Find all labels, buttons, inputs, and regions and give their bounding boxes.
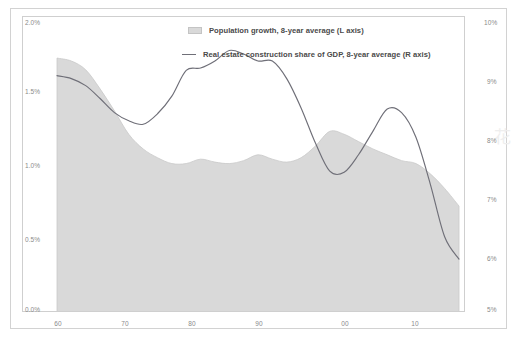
x-axis-tick-80: 80 bbox=[181, 320, 203, 327]
legend-label-population-growth: Population growth, 8-year average (L axi… bbox=[209, 26, 364, 35]
plot-area-frame: 花 bbox=[22, 16, 465, 312]
y-axis-right-tick-6: 6% bbox=[487, 255, 497, 262]
x-axis-tick-70: 70 bbox=[114, 320, 136, 327]
y-axis-right-tick-8: 8% bbox=[487, 137, 497, 144]
x-axis-tick-90: 90 bbox=[248, 320, 270, 327]
line-swatch-icon bbox=[182, 54, 196, 55]
legend-item-real-estate-share: Real estate construction share of GDP, 8… bbox=[182, 50, 431, 59]
y-axis-right-tick-7: 7% bbox=[487, 196, 497, 203]
y-axis-right-tick-5: 5% bbox=[487, 306, 497, 313]
plot-canvas bbox=[23, 17, 464, 311]
area-series-group bbox=[57, 58, 459, 311]
x-axis-tick-60: 60 bbox=[47, 320, 69, 327]
population-growth-area bbox=[57, 58, 459, 311]
x-axis-tick-00: 00 bbox=[334, 320, 356, 327]
y-axis-left-tick-0: 0.0% bbox=[25, 306, 40, 313]
y-axis-left-tick-2: 2.0% bbox=[25, 19, 40, 26]
y-axis-left-tick-0p5: 0.5% bbox=[25, 236, 40, 243]
chart-figure: 花 2.0% 1.5% 1.0% 0.5% 0.0% 10% 9% 8% 7% … bbox=[0, 0, 523, 347]
y-axis-left-tick-1: 1.0% bbox=[25, 162, 40, 169]
y-axis-left-tick-1p5: 1.5% bbox=[25, 88, 40, 95]
x-axis-tick-10: 10 bbox=[404, 320, 426, 327]
y-axis-right-tick-9: 9% bbox=[487, 78, 497, 85]
area-swatch-icon bbox=[188, 27, 202, 34]
y-axis-right-tick-10: 10% bbox=[484, 19, 497, 26]
legend-label-real-estate-share: Real estate construction share of GDP, 8… bbox=[203, 50, 431, 59]
legend-item-population-growth: Population growth, 8-year average (L axi… bbox=[188, 26, 364, 35]
